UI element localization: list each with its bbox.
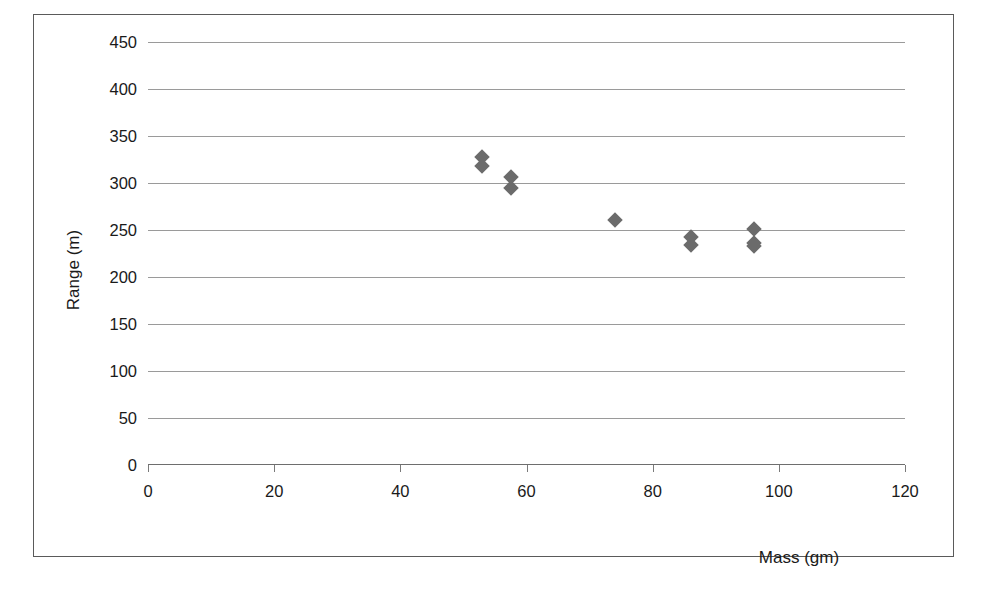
y-tick-label-250: 250 (109, 221, 137, 240)
gridline-y-250 (148, 230, 905, 231)
chart-frame: Range (m) 050100150200250300350400450020… (33, 14, 954, 557)
x-tick-100 (779, 465, 780, 472)
y-tick-label-450: 450 (109, 33, 137, 52)
gridline-y-150 (148, 324, 905, 325)
x-tick-60 (527, 465, 528, 472)
x-tick-label-20: 20 (265, 482, 283, 501)
x-tick-80 (653, 465, 654, 472)
gridline-y-200 (148, 277, 905, 278)
x-tick-40 (400, 465, 401, 472)
x-tick-label-60: 60 (517, 482, 535, 501)
x-tick-label-40: 40 (391, 482, 409, 501)
x-tick-20 (274, 465, 275, 472)
x-tick-120 (905, 465, 906, 472)
x-tick-0 (148, 465, 149, 472)
y-tick-label-400: 400 (109, 80, 137, 99)
y-tick-label-200: 200 (109, 268, 137, 287)
gridline-y-50 (148, 418, 905, 419)
y-tick-label-50: 50 (119, 409, 137, 428)
plot-area: 0501001502002503003504004500204060801001… (148, 42, 905, 465)
y-tick-label-100: 100 (109, 362, 137, 381)
gridline-y-300 (148, 183, 905, 184)
x-axis-title: Mass (gm) (759, 548, 839, 568)
y-tick-label-150: 150 (109, 315, 137, 334)
y-tick-label-350: 350 (109, 127, 137, 146)
y-axis-title: Range (m) (64, 230, 84, 310)
data-point (607, 212, 623, 228)
gridline-y-450 (148, 42, 905, 43)
x-tick-label-100: 100 (765, 482, 793, 501)
gridline-y-400 (148, 89, 905, 90)
x-tick-label-120: 120 (891, 482, 919, 501)
y-tick-label-0: 0 (128, 456, 137, 475)
x-tick-label-0: 0 (143, 482, 152, 501)
x-tick-label-80: 80 (643, 482, 661, 501)
gridline-y-350 (148, 136, 905, 137)
gridline-y-100 (148, 371, 905, 372)
y-tick-label-300: 300 (109, 174, 137, 193)
